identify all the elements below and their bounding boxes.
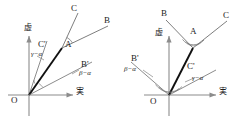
origin-label: O (11, 96, 18, 105)
angle-label-beta-minus-alpha: β−α (79, 70, 91, 77)
angle-label-beta-minus-alpha: β−α (124, 66, 136, 73)
point-label-c-prime: C' (38, 40, 46, 49)
ray-o-vertex (169, 48, 193, 95)
real-axis-label: 実 (219, 88, 227, 96)
point-label-b: B (104, 16, 110, 25)
point-label-a: A (65, 40, 72, 49)
imaginary-axis-arrow (26, 36, 31, 43)
point-label-c: C (71, 4, 77, 13)
imaginary-axis-label: 虚 (155, 29, 163, 37)
angle-arc-beta-left (39, 83, 43, 87)
left-diagram: 虚 実 O C B A C' γ−α B' β−α (0, 0, 123, 123)
point-label-b-prime: B' (81, 60, 89, 69)
figure-canvas: 虚 実 O C B A C' γ−α B' β−α (0, 0, 245, 123)
imaginary-axis-arrow (166, 36, 171, 43)
angle-arc-gamma-left (34, 80, 35, 84)
point-label-a: A (190, 27, 197, 36)
right-diagram: 虚 実 O B C A B' β−α C' γ−α (122, 0, 245, 123)
origin-label: O (150, 97, 157, 106)
ray-o-bprime (131, 62, 169, 95)
point-label-c: C (223, 11, 229, 20)
real-axis-arrow (210, 92, 217, 97)
real-axis-label: 実 (76, 88, 84, 96)
angle-label-gamma-minus-alpha: γ−α (31, 51, 42, 58)
real-axis-arrow (67, 92, 74, 97)
angle-label-gamma-minus-alpha: γ−α (192, 75, 203, 82)
point-label-b: B (161, 9, 167, 18)
point-label-c-prime: C' (187, 62, 195, 71)
point-label-b-prime: B' (131, 54, 139, 63)
imaginary-axis-label: 虚 (24, 24, 32, 32)
